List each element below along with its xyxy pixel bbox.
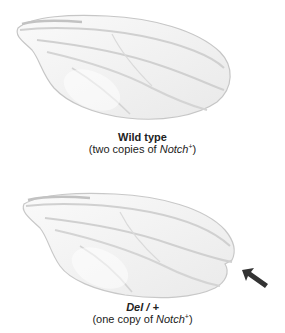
deletion-wing-illustration xyxy=(20,190,245,300)
deletion-title: Del / + xyxy=(126,301,159,313)
wild-type-title: Wild type xyxy=(0,131,285,143)
gene-name: Notch xyxy=(160,143,189,155)
wild-type-wing-illustration xyxy=(12,10,237,122)
wild-type-caption: Wild type (two copies of Notch+) xyxy=(0,131,285,155)
wild-type-subtitle: (two copies of Notch+) xyxy=(0,143,285,155)
arrow-icon xyxy=(240,266,272,292)
deletion-subtitle: (one copy of Notch+) xyxy=(0,313,285,325)
deletion-caption: Del / + (one copy of Notch+) xyxy=(0,301,285,325)
wild-type-panel: Wild type (two copies of Notch+) xyxy=(0,0,285,165)
gene-name: Notch xyxy=(156,313,185,325)
deletion-panel: Del / + (one copy of Notch+) xyxy=(0,170,285,333)
